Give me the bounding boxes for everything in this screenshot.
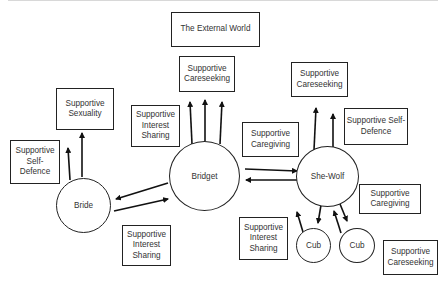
edge-bridget-shewolf bbox=[245, 169, 297, 171]
box-self-defence-right: Supportive Self-Defence bbox=[344, 108, 408, 145]
node-bride: Bride bbox=[56, 178, 111, 233]
box-careseeking-bottom-right: Supportive Careseeking bbox=[383, 240, 438, 275]
edge-shewolf-cub2 bbox=[340, 204, 347, 221]
box-external-world: The External World bbox=[171, 12, 260, 47]
box-sexuality: Supportive Sexuality bbox=[56, 88, 114, 130]
node-cub-2: Cub bbox=[339, 228, 375, 263]
edge-bridget-careseeking-3 bbox=[220, 102, 222, 144]
edge-bridget-bride bbox=[116, 183, 168, 199]
edge-bridget-careseeking-1 bbox=[190, 102, 192, 144]
box-interest-sharing-bottom-middle: Supportive Interest Sharing bbox=[239, 217, 288, 260]
node-she-wolf: She-Wolf bbox=[296, 146, 359, 207]
edge-cub1-shewolf bbox=[297, 212, 303, 232]
edge-bride-bridget bbox=[114, 199, 168, 211]
edge-shewolf-careseeking-1 bbox=[314, 108, 316, 150]
node-cub-1: Cub bbox=[296, 228, 331, 263]
node-bridget: Bridget bbox=[169, 141, 240, 211]
box-interest-sharing-bottom-left: Supportive Interest Sharing bbox=[122, 225, 171, 266]
box-interest-sharing-upper: Supportive Interest Sharing bbox=[131, 105, 180, 147]
box-caregiving-middle: Supportive Caregiving bbox=[242, 122, 299, 157]
edge-bride-selfdefence bbox=[68, 148, 70, 180]
edge-shewolf-cub1 bbox=[318, 205, 321, 223]
edge-cub2-shewolf bbox=[334, 211, 341, 233]
box-careseeking-top: Supportive Careseeking bbox=[179, 56, 235, 92]
box-caregiving-right: Supportive Caregiving bbox=[359, 184, 421, 214]
box-self-defence-left: Supportive Self-Defence bbox=[10, 140, 60, 184]
box-careseeking-right: Supportive Careseeking bbox=[291, 62, 348, 97]
